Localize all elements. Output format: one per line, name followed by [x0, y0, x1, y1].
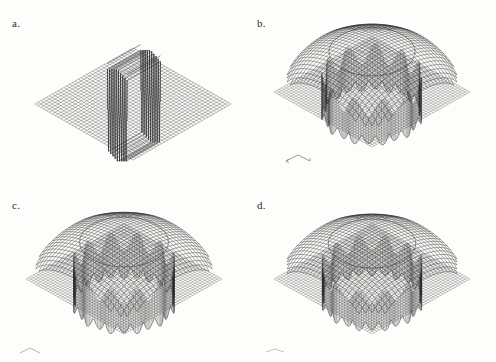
- surface-plot-d: [248, 181, 496, 362]
- axis-marker-d: [264, 346, 290, 356]
- axis-marker-c: [18, 345, 48, 357]
- panel-c: c.: [0, 181, 248, 362]
- surface-plot-a: [0, 0, 248, 181]
- figure-panel-grid: a. b. c. d.: [0, 0, 496, 362]
- surface-plot-c: [0, 181, 248, 362]
- panel-b: b.: [248, 0, 496, 181]
- axis-marker-b: [284, 152, 318, 166]
- panel-d: d.: [248, 181, 496, 362]
- panel-a: a.: [0, 0, 248, 181]
